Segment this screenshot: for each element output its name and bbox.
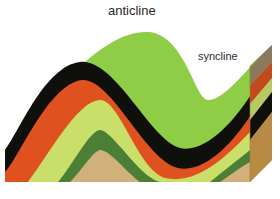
block-diagram (0, 0, 280, 199)
side-face (250, 45, 272, 182)
